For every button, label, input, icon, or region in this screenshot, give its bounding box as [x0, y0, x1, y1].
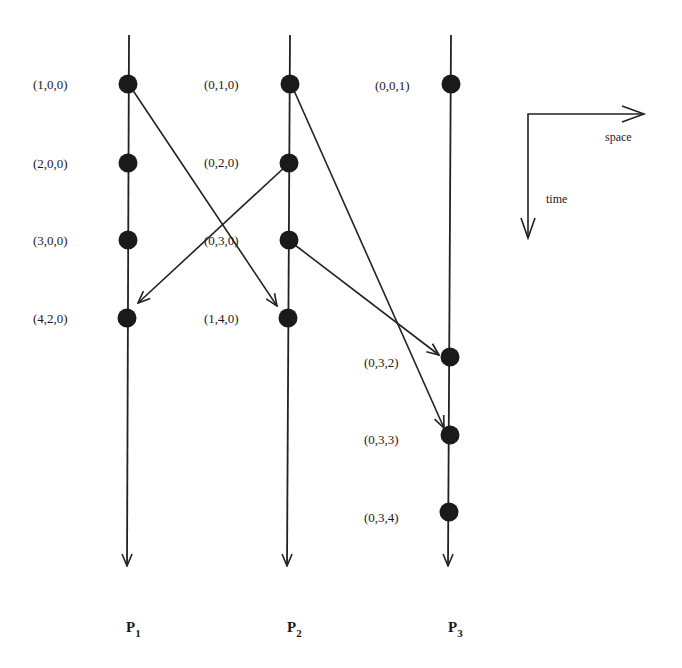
time-axis-label: time	[546, 192, 567, 206]
diagram-canvas	[0, 0, 682, 668]
process-line-p3	[448, 35, 451, 566]
event-dot-p3-3	[441, 426, 460, 445]
process-label-p1-subscript: 1	[135, 627, 141, 639]
message-arrow-p2-to-p3-long	[292, 86, 444, 428]
event-dot-p3-4	[440, 503, 459, 522]
timestamp-label-p3-2: (0,3,2)	[364, 356, 399, 370]
timestamp-label-p2-2: (0,2,0)	[204, 156, 239, 170]
message-arrow-p2-to-p3-short	[291, 242, 439, 355]
space-time-legend-axes	[521, 106, 644, 238]
timestamp-label-p1-3: (3,0,0)	[33, 234, 68, 248]
process-line-p1	[127, 35, 129, 566]
timestamp-label-p1-4: (4,2,0)	[33, 312, 68, 326]
timestamp-label-p1-1: (1,0,0)	[33, 78, 68, 92]
event-dot-p1-2	[119, 154, 138, 173]
timestamp-label-p2-1: (0,1,0)	[204, 78, 239, 92]
space-axis-label: space	[605, 130, 632, 144]
space-time-diagram: (1,0,0) (2,0,0) (3,0,0) (4,2,0) (0,1,0) …	[0, 0, 682, 668]
timestamp-label-p3-4: (0,3,4)	[364, 511, 399, 525]
event-dot-p1-3	[119, 231, 138, 250]
process-label-p2-name: P	[287, 619, 296, 635]
event-dot-p3-2	[441, 348, 460, 367]
process-label-p2-subscript: 2	[296, 627, 302, 639]
process-label-p1: P1	[126, 620, 141, 640]
process-label-p3-subscript: 3	[457, 627, 463, 639]
process-label-p3-name: P	[448, 619, 457, 635]
timestamp-label-p1-2: (2,0,0)	[33, 157, 68, 171]
event-dot-p2-4	[279, 309, 298, 328]
event-dot-p2-1	[281, 75, 300, 94]
message-arrow-p1-to-p2	[130, 86, 277, 306]
process-line-p2	[287, 35, 290, 566]
event-dot-p1-4	[118, 309, 137, 328]
process-label-p2: P2	[287, 620, 302, 640]
timestamp-label-p2-3: (0,3,0)	[204, 234, 239, 248]
event-dot-p2-2	[280, 154, 299, 173]
timestamp-label-p2-4: (1,4,0)	[204, 312, 239, 326]
event-dot-p3-1	[442, 75, 461, 94]
event-dot-p1-1	[119, 75, 138, 94]
process-label-p3: P3	[448, 620, 463, 640]
timestamp-label-p3-3: (0,3,3)	[364, 433, 399, 447]
timestamp-label-p3-1: (0,0,1)	[375, 79, 410, 93]
process-label-p1-name: P	[126, 619, 135, 635]
event-dot-p2-3	[280, 231, 299, 250]
